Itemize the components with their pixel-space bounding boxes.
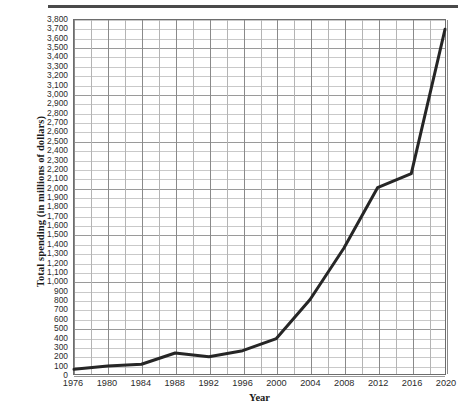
y-tick-label: 1,400 xyxy=(8,240,68,248)
y-tick-label: 3,800 xyxy=(8,15,68,23)
y-tick-label: 3,400 xyxy=(8,52,68,60)
y-tick-label: 400 xyxy=(8,334,68,342)
y-tick-label: 1,900 xyxy=(8,193,68,201)
y-tick-label: 900 xyxy=(8,287,68,295)
y-tick-label: 3,300 xyxy=(8,62,68,70)
x-axis-tick-labels: 1976198019841988199219962000200420082012… xyxy=(73,378,446,392)
y-tick-label: 2,000 xyxy=(8,184,68,192)
line-chart: Total spending (in millions of dollars) … xyxy=(0,0,466,417)
y-tick-label: 100 xyxy=(8,362,68,370)
y-tick-label: 2,100 xyxy=(8,174,68,182)
y-tick-label: 3,600 xyxy=(8,34,68,42)
y-tick-label: 1,600 xyxy=(8,221,68,229)
y-tick-label: 1,300 xyxy=(8,249,68,257)
y-tick-label: 2,600 xyxy=(8,127,68,135)
y-tick-label: 500 xyxy=(8,324,68,332)
y-tick-label: 800 xyxy=(8,296,68,304)
y-tick-label: 1,000 xyxy=(8,277,68,285)
y-tick-label: 2,200 xyxy=(8,165,68,173)
y-tick-label: 2,500 xyxy=(8,137,68,145)
y-tick-label: 200 xyxy=(8,352,68,360)
gridline-horizontal xyxy=(74,376,445,377)
y-tick-label: 1,700 xyxy=(8,212,68,220)
data-series-line xyxy=(74,20,445,374)
y-tick-label: 300 xyxy=(8,343,68,351)
x-tick-label: 2020 xyxy=(423,378,466,388)
plot-area xyxy=(73,19,446,375)
y-tick-label: 1,200 xyxy=(8,259,68,267)
y-tick-label: 3,700 xyxy=(8,24,68,32)
y-tick-label: 1,100 xyxy=(8,268,68,276)
y-tick-label: 3,200 xyxy=(8,71,68,79)
y-tick-label: 1,800 xyxy=(8,202,68,210)
y-tick-label: 2,300 xyxy=(8,156,68,164)
x-axis-title: Year xyxy=(73,392,446,403)
y-tick-label: 3,000 xyxy=(8,90,68,98)
y-tick-label: 1,500 xyxy=(8,230,68,238)
y-tick-label: 700 xyxy=(8,305,68,313)
y-tick-label: 3,500 xyxy=(8,43,68,51)
y-tick-label: 2,400 xyxy=(8,146,68,154)
y-tick-label: 2,900 xyxy=(8,99,68,107)
y-tick-label: 3,100 xyxy=(8,81,68,89)
y-tick-label: 2,800 xyxy=(8,109,68,117)
y-axis-tick-labels: 01002003004005006007008009001,0001,1001,… xyxy=(5,19,68,375)
gridline-vertical xyxy=(447,20,448,374)
y-tick-label: 2,700 xyxy=(8,118,68,126)
y-tick-label: 600 xyxy=(8,315,68,323)
